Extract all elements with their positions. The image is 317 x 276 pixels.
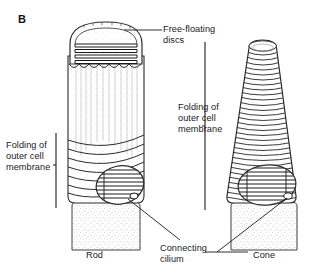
label-free-floating-discs: Free-floating discs (163, 24, 215, 46)
label-rod: Rod (86, 250, 103, 261)
label-cone: Cone (253, 250, 275, 261)
cone-inner-segment (231, 202, 297, 250)
cone-connecting-cilium-section (284, 193, 292, 199)
panel-letter: B (18, 13, 26, 25)
label-folding-outer-cell-membrane-rod: Folding of outer cell membrane (6, 140, 50, 174)
rod-cell (68, 22, 148, 250)
diagram-artwork (0, 0, 317, 276)
cone-cell (226, 40, 300, 250)
label-connecting-cilium: Connecting cilium (160, 243, 207, 265)
rod-inner-segment (72, 202, 140, 250)
rod-connecting-cilium-section (130, 193, 138, 199)
label-folding-outer-cell-membrane-cone: Folding of outer cell membrane (178, 102, 222, 136)
photoreceptor-figure: B Free-floating discs Folding of outer c… (0, 0, 317, 276)
rod-outer-segment-cap (70, 22, 142, 64)
